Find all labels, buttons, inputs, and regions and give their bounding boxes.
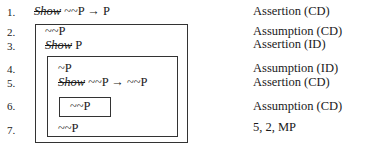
line-number: 3. — [7, 40, 29, 52]
line-number: 6. — [7, 100, 29, 112]
formula-text: ~~P — [45, 24, 65, 39]
formula-text: P — [75, 38, 82, 52]
line-number: 2. — [7, 26, 29, 38]
line-justification: Assertion (CD) — [253, 4, 330, 19]
line-number: 1. — [7, 6, 29, 18]
line-justification: Assumption (CD) — [253, 99, 342, 114]
show-keyword: Show — [58, 75, 85, 89]
show-keyword: Show — [45, 38, 72, 52]
formula-text: ~P — [58, 61, 72, 76]
line-number: 5. — [7, 77, 29, 89]
formula-text: ~~P → ~~P — [88, 75, 147, 89]
line-justification: Assertion (CD) — [253, 75, 330, 90]
line-justification: 5, 2, MP — [253, 120, 296, 135]
line-justification: Assertion (ID) — [253, 37, 326, 52]
formula-text: ~~P — [58, 121, 78, 136]
line-justification: Assumption (ID) — [253, 61, 338, 76]
line-formula: Show P — [45, 38, 82, 53]
formula-text: ~~P → P — [64, 4, 110, 18]
show-keyword: Show — [34, 4, 61, 18]
line-number: 7. — [7, 124, 29, 136]
line-formula: Show ~~P → P — [34, 4, 110, 19]
line-number: 4. — [7, 63, 29, 75]
line-formula: Show ~~P → ~~P — [58, 75, 147, 90]
formula-text: ~~P — [70, 99, 90, 114]
